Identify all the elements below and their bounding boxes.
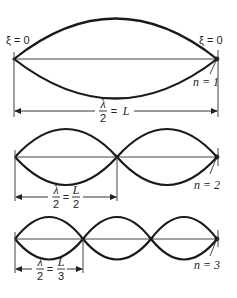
node-point bbox=[149, 237, 152, 240]
svg-text:=: = bbox=[63, 191, 69, 203]
standing-wave-diagram: ξ = 0 ξ = 0 λ 2 = L n = 1 bbox=[0, 0, 237, 298]
wave-envelope-lower bbox=[15, 239, 83, 260]
wave-envelope-lower bbox=[15, 157, 117, 185]
wave-envelope-upper bbox=[14, 19, 217, 60]
svg-text:L: L bbox=[57, 255, 65, 269]
fixed-end-node bbox=[215, 237, 220, 242]
fixed-end-node bbox=[215, 57, 220, 62]
wave-envelope-upper bbox=[151, 217, 217, 239]
mode-number-label: n = 3 bbox=[194, 258, 220, 272]
wave-envelope-lower bbox=[14, 59, 217, 99]
svg-text:=: = bbox=[47, 263, 53, 275]
svg-text:2: 2 bbox=[37, 270, 43, 282]
svg-text:λ: λ bbox=[36, 255, 42, 269]
svg-text:3: 3 bbox=[58, 270, 64, 282]
mode-number-label: n = 2 bbox=[194, 178, 220, 192]
wave-envelope-lower bbox=[151, 239, 217, 260]
mode-number-label: n = 1 bbox=[193, 75, 219, 89]
svg-text:=: = bbox=[111, 105, 117, 117]
mode-2: λ 2 = L 2 n = 2 bbox=[15, 129, 220, 210]
wavelength-label: λ 2 = L 2 bbox=[52, 183, 80, 210]
mode-1: ξ = 0 ξ = 0 λ 2 = L n = 1 bbox=[6, 19, 223, 125]
mode-3: λ 2 = L 3 n = 3 bbox=[15, 217, 220, 282]
right-boundary-label: ξ = 0 bbox=[199, 34, 223, 46]
wave-envelope-upper bbox=[117, 129, 217, 157]
svg-text:L: L bbox=[122, 104, 130, 118]
svg-text:L: L bbox=[72, 183, 80, 197]
svg-text:λ: λ bbox=[52, 183, 58, 197]
wavelength-label: λ 2 = L bbox=[99, 97, 130, 124]
fixed-end-node bbox=[215, 155, 220, 160]
wave-envelope-upper bbox=[83, 217, 151, 239]
svg-text:2: 2 bbox=[100, 112, 106, 124]
svg-text:λ: λ bbox=[99, 97, 105, 111]
left-boundary-label: ξ = 0 bbox=[6, 34, 30, 46]
wave-envelope-upper bbox=[15, 217, 83, 239]
wave-envelope-lower bbox=[83, 239, 151, 260]
svg-text:2: 2 bbox=[73, 198, 79, 210]
wave-envelope-upper bbox=[15, 129, 117, 157]
svg-text:2: 2 bbox=[53, 198, 59, 210]
